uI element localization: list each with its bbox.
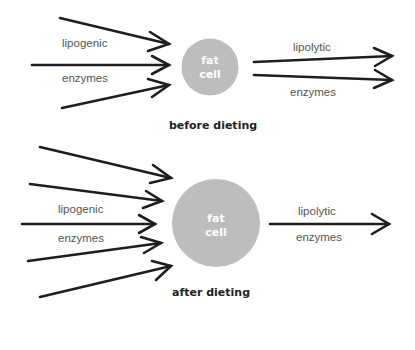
before-fat-cell: fat cell (182, 39, 239, 96)
before-lipolytic-arrows (254, 48, 392, 88)
fat-cell-label-line1: fat (201, 54, 218, 67)
after-outflow-label-bottom: enzymes (296, 231, 342, 243)
fat-cell-label-line2: cell (199, 68, 221, 81)
after-lipogenic-arrows (22, 147, 171, 297)
arrow-icon (22, 215, 155, 233)
before-dieting-panel: lipogenic enzymes fat cell lipolytic enz… (32, 18, 392, 132)
after-outflow-label-top: lipolytic (298, 205, 336, 217)
before-inflow-label-bottom: enzymes (62, 72, 108, 84)
after-dieting-panel: lipogenic enzymes fat cell lipolytic enz… (22, 147, 389, 299)
after-inflow-label-top: lipogenic (58, 203, 104, 215)
before-inflow-label-top: lipogenic (62, 37, 108, 49)
before-outflow-label-bottom: enzymes (290, 86, 336, 98)
before-outflow-label-top: lipolytic (293, 41, 331, 53)
before-lipogenic-arrows (32, 18, 169, 108)
fat-cell-label-line1: fat (207, 212, 224, 225)
fat-cell-circle (182, 39, 239, 96)
arrow-icon (40, 147, 171, 183)
fat-cell-label-line2: cell (205, 226, 227, 239)
before-dieting-caption: before dieting (169, 119, 257, 132)
after-fat-cell: fat cell (172, 179, 260, 267)
after-inflow-label-bottom: enzymes (58, 232, 104, 244)
arrow-icon (40, 261, 171, 297)
after-dieting-caption: after dieting (172, 286, 250, 299)
diagram-canvas: lipogenic enzymes fat cell lipolytic enz… (0, 0, 415, 350)
